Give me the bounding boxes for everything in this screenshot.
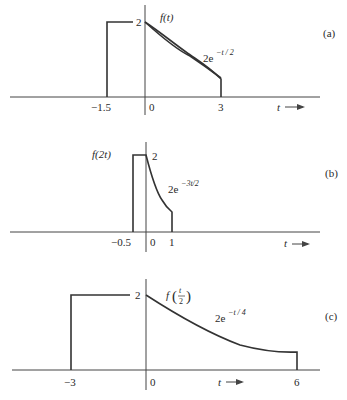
- tick-label: −3: [64, 376, 76, 388]
- svg-text:): ): [186, 288, 191, 305]
- panel-tag: (a): [323, 27, 336, 40]
- svg-text:2: 2: [179, 297, 183, 306]
- axis-label: t: [284, 237, 288, 249]
- expression-base: 2e: [168, 183, 179, 195]
- expression-exponent: −t / 4: [228, 308, 246, 317]
- function-label: f ( t 2 ): [166, 286, 191, 306]
- panel-b: 2 f(2t) 2e −3t/2 −0.5 0 1 t (b): [10, 142, 338, 252]
- function-label: f(t): [160, 11, 174, 24]
- tick-label: 3: [218, 101, 224, 113]
- svg-text:(: (: [172, 288, 177, 305]
- panel-c: 2 f ( t 2 ) 2e −t / 4 −3 0 6 t (c): [12, 279, 338, 390]
- arrow-head-icon: [297, 104, 305, 110]
- tick-label: 1: [169, 236, 175, 248]
- panel-a: 2 f(t) 2e −t / 2 −1.5 0 3 t (a): [10, 5, 336, 115]
- expression-exponent: −3t/2: [181, 179, 199, 188]
- svg-text:t: t: [179, 286, 182, 295]
- expression-exponent: −t / 2: [216, 48, 234, 57]
- panel-tag: (b): [325, 167, 338, 180]
- signal-curve: [133, 155, 172, 232]
- panel-tag: (c): [325, 310, 338, 323]
- axis-label: t: [218, 376, 222, 388]
- time-scaling-diagram: 2 f(t) 2e −t / 2 −1.5 0 3 t (a) 2 f(2t) …: [0, 0, 347, 400]
- signal-curve: [71, 295, 297, 370]
- peak-label: 2: [152, 150, 158, 162]
- expression-base: 2e: [215, 312, 226, 324]
- function-label: f(2t): [92, 148, 111, 161]
- arrow-head-icon: [302, 241, 310, 247]
- tick-label: 0: [149, 101, 155, 113]
- peak-label: 2: [136, 16, 142, 28]
- peak-label: 2: [135, 289, 141, 301]
- tick-label: 0: [150, 376, 156, 388]
- axis-label: t: [277, 101, 281, 113]
- tick-label: 6: [294, 376, 300, 388]
- expression-base: 2e: [203, 52, 214, 64]
- tick-label: −0.5: [111, 236, 131, 248]
- arrow-head-icon: [236, 379, 244, 385]
- svg-text:f: f: [166, 289, 171, 301]
- tick-label: −1.5: [91, 101, 111, 113]
- tick-label: 0: [150, 236, 156, 248]
